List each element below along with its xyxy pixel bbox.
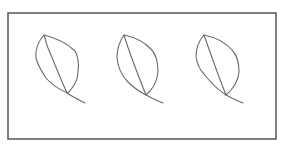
leaf-midrib <box>124 35 146 95</box>
leaf-drawing <box>0 0 285 150</box>
leaf-3 <box>196 35 243 103</box>
leaf-outline <box>117 35 158 95</box>
frame-border <box>8 13 276 139</box>
leaf-1 <box>36 35 85 103</box>
leaf-outline <box>36 35 79 93</box>
leaf-stem <box>146 95 163 103</box>
leaves-group <box>36 35 243 103</box>
leaf-stem <box>67 93 85 103</box>
leaf-midrib <box>44 35 67 93</box>
leaf-outline <box>196 35 239 95</box>
leaf-stem <box>226 95 243 103</box>
leaf-2 <box>117 35 163 103</box>
